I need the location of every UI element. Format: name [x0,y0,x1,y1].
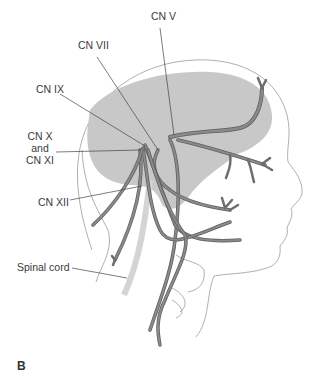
label-cn-vii: CN VII [78,39,109,51]
larynx-outline [172,255,204,318]
leader-cn-xii [70,186,142,200]
label-cn-xi: CN XI [20,154,60,166]
panel-letter: B [17,359,26,373]
label-cn-x-xi: CN X and CN XI [20,130,60,166]
label-cn-xii: CN XII [38,196,69,208]
label-spinal-cord: Spinal cord [17,261,70,273]
label-cn-x: CN X [20,130,60,142]
head-illustration [0,0,309,379]
label-cn-ix: CN IX [36,83,64,95]
leader-spinal-cord [72,268,127,278]
label-cn-v: CN V [151,10,176,22]
cranial-nerves-diagram: CN V CN VII CN IX CN X and CN XI CN XII … [0,0,309,379]
label-and: and [20,142,60,154]
